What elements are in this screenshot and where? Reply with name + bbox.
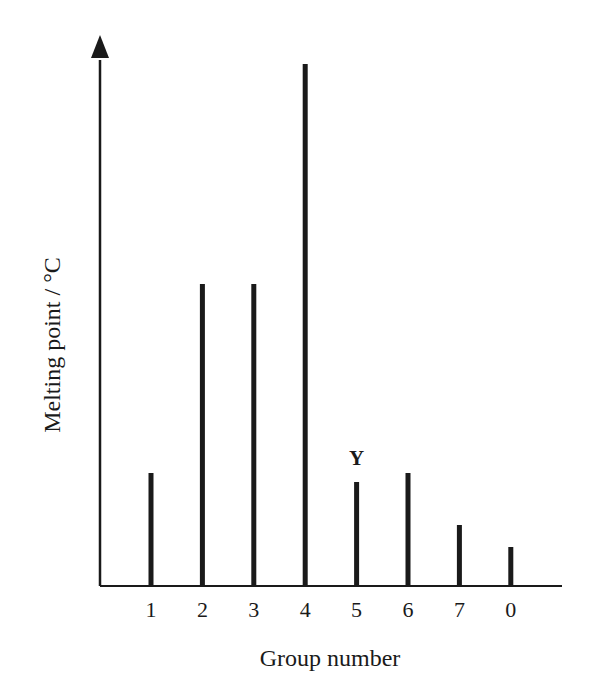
chart-canvas bbox=[0, 0, 591, 694]
x-tick-0: 0 bbox=[505, 597, 516, 623]
bar-group-0 bbox=[508, 547, 513, 586]
y-axis-label: Melting point / °C bbox=[39, 257, 66, 433]
bar-group-7 bbox=[457, 525, 462, 586]
bar-group-4 bbox=[303, 64, 308, 586]
bars bbox=[149, 64, 514, 586]
x-tick-7: 7 bbox=[454, 597, 465, 623]
bar-group-6 bbox=[406, 473, 411, 586]
bar-group-2 bbox=[200, 284, 205, 586]
bar-group-3 bbox=[251, 284, 256, 586]
bar-group-5 bbox=[354, 482, 359, 586]
x-tick-2: 2 bbox=[197, 597, 208, 623]
x-tick-1: 1 bbox=[146, 597, 157, 623]
x-tick-5: 5 bbox=[351, 597, 362, 623]
x-tick-6: 6 bbox=[403, 597, 414, 623]
melting-point-chart: Melting point / °C Group number 12345670… bbox=[0, 0, 591, 694]
bar-group-1 bbox=[149, 473, 154, 586]
x-tick-4: 4 bbox=[300, 597, 311, 623]
y-axis-arrow-icon bbox=[91, 35, 109, 58]
x-tick-3: 3 bbox=[248, 597, 259, 623]
annotation-label: Y bbox=[349, 446, 364, 471]
x-axis-label: Group number bbox=[260, 645, 401, 672]
